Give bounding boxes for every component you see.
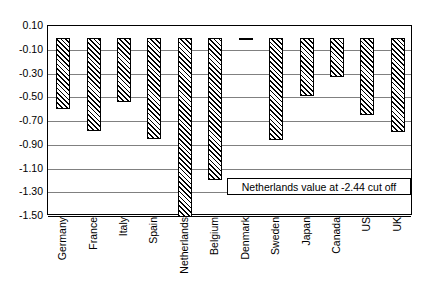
x-axis-tick-label: Japan — [299, 217, 313, 291]
bar — [300, 38, 314, 96]
y-axis-tick-label: -0.30 — [0, 68, 43, 78]
bar — [269, 38, 283, 140]
bar — [56, 38, 70, 109]
x-axis-tick-label: Sweden — [268, 217, 282, 291]
bar — [330, 38, 344, 77]
x-axis-tick-label: US — [359, 217, 373, 291]
x-axis-tick-label: France — [86, 217, 100, 291]
bar-chart: 0.10-0.10-0.30-0.50-0.70-0.90-1.10-1.30-… — [0, 0, 430, 293]
bar — [239, 38, 253, 40]
bar — [208, 38, 222, 181]
x-axis-tick-label: Germany — [55, 217, 69, 291]
bar — [178, 38, 192, 216]
x-axis-tick-label: Canada — [329, 217, 343, 291]
plot-area: Netherlands value at -2.44 cut off — [47, 25, 412, 215]
bar — [147, 38, 161, 139]
y-axis-tick-label: -0.90 — [0, 139, 43, 149]
y-axis-tick-label: -0.70 — [0, 115, 43, 125]
y-axis-tick-label: 0.10 — [0, 20, 43, 30]
bar — [117, 38, 131, 102]
y-axis-tick-label: -1.50 — [0, 210, 43, 220]
x-axis-tick-label: Belgium — [207, 217, 221, 291]
x-axis-tick-label: Italy — [116, 217, 130, 291]
y-axis-tick-label: -0.50 — [0, 91, 43, 101]
x-axis-tick-label: UK — [390, 217, 404, 291]
y-axis: 0.10-0.10-0.30-0.50-0.70-0.90-1.10-1.30-… — [0, 0, 43, 293]
x-axis: GermanyFranceItalySpainNetherlandsBelgiu… — [47, 217, 412, 293]
bar — [360, 38, 374, 115]
bar — [87, 38, 101, 131]
y-axis-tick-label: -1.10 — [0, 163, 43, 173]
y-axis-tick-label: -1.30 — [0, 186, 43, 196]
bar — [391, 38, 405, 132]
y-axis-tick-label: -0.10 — [0, 44, 43, 54]
x-axis-tick-label: Denmark — [238, 217, 252, 291]
x-axis-tick-label: Netherlands — [177, 217, 191, 291]
annotation-netherlands-cutoff: Netherlands value at -2.44 cut off — [227, 178, 411, 195]
x-axis-tick-label: Spain — [146, 217, 160, 291]
